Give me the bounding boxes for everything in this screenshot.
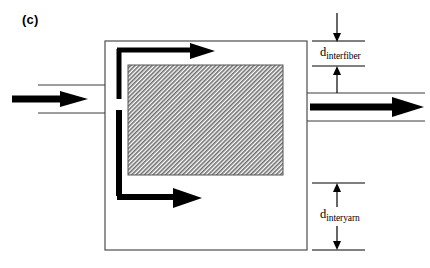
interyarn-dimension-label: dinteryarn <box>320 208 360 223</box>
inlet-flow-arrow <box>12 91 88 107</box>
flow-schematic-diagram <box>0 0 430 268</box>
figure-panel-c: (c) <box>0 0 430 268</box>
interfiber-up-arrow <box>333 66 341 93</box>
interyarn-up-arrow <box>333 183 341 207</box>
interyarn-down-arrow <box>333 226 341 250</box>
interyarn-subscript: interyarn <box>326 213 359 223</box>
interfiber-subscript: interfiber <box>326 51 360 61</box>
outlet-flow-arrow <box>310 97 424 117</box>
interfiber-down-arrow <box>333 13 341 42</box>
interfiber-dimension-label: dinterfiber <box>320 46 361 61</box>
hatched-fiber-bundle <box>128 65 283 175</box>
panel-label: (c) <box>22 12 39 27</box>
